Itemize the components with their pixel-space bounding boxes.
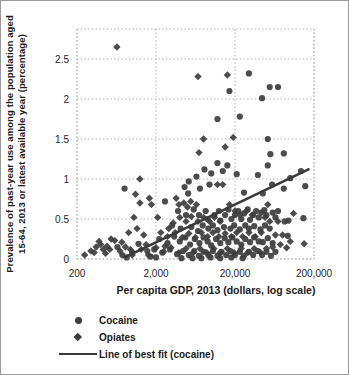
cocaine-point xyxy=(153,254,159,260)
y-tick-label: 1 xyxy=(63,174,69,185)
x-tick-label: 20,000 xyxy=(220,268,251,279)
cocaine-point xyxy=(275,208,281,214)
cocaine-point xyxy=(225,239,231,245)
opiate-point xyxy=(219,181,226,188)
cocaine-point xyxy=(186,178,192,184)
cocaine-point xyxy=(203,208,209,214)
opiate-point xyxy=(264,201,271,208)
y-tick-label: 2 xyxy=(63,94,69,105)
cocaine-point xyxy=(275,84,281,90)
x-tick-label: 200 xyxy=(69,268,86,279)
opiate-point xyxy=(187,198,194,205)
opiate-point xyxy=(224,71,231,78)
cocaine-point xyxy=(224,162,230,168)
cocaine-point xyxy=(217,240,223,246)
cocaine-circle-marker-icon xyxy=(75,317,82,324)
cocaine-point xyxy=(193,174,199,180)
opiate-point xyxy=(130,214,137,221)
cocaine-point xyxy=(206,182,212,188)
opiate-point xyxy=(172,195,179,202)
cocaine-point xyxy=(265,162,271,168)
cocaine-point xyxy=(251,223,257,229)
cocaine-point xyxy=(200,222,206,228)
y-tick-label: 0 xyxy=(63,254,69,265)
opiates-diamond-marker-icon xyxy=(74,333,82,341)
cocaine-point xyxy=(214,116,220,122)
legend-label-opiates: Opiates xyxy=(99,332,136,343)
x-tick-label: 200,000 xyxy=(296,268,333,279)
cocaine-point xyxy=(247,239,253,245)
cocaine-point xyxy=(237,114,243,120)
opiate-point xyxy=(132,191,139,198)
cocaine-point xyxy=(198,255,204,261)
opiate-point xyxy=(195,149,202,156)
scatter-plot: 00.511.522.52002,00020,000200,000 xyxy=(1,1,349,375)
opiate-point xyxy=(283,244,290,251)
opiate-point xyxy=(133,225,140,232)
cocaine-point xyxy=(121,186,127,192)
opiate-point xyxy=(148,201,155,208)
opiate-point xyxy=(157,229,164,236)
cocaine-point xyxy=(183,212,189,218)
opiate-point xyxy=(230,134,237,141)
cocaine-point xyxy=(285,233,291,239)
best-fit-line-swatch-icon xyxy=(59,353,97,356)
opiate-point xyxy=(176,214,183,221)
cocaine-point xyxy=(265,235,271,241)
y-tick-label: 1.5 xyxy=(55,134,69,145)
cocaine-point xyxy=(246,70,252,76)
cocaine-point xyxy=(267,226,273,232)
cocaine-point xyxy=(234,171,240,177)
cocaine-point xyxy=(178,255,184,261)
opiate-point xyxy=(81,251,88,258)
opiate-point xyxy=(146,195,153,202)
opiate-point xyxy=(277,241,284,248)
cocaine-point xyxy=(226,88,232,94)
cocaine-point xyxy=(300,215,306,221)
chart: 00.511.522.52002,00020,000200,000 Preval… xyxy=(0,0,349,375)
opiate-point xyxy=(272,231,279,238)
cocaine-point xyxy=(241,190,247,196)
cocaine-point xyxy=(185,190,191,196)
opiate-point xyxy=(125,229,132,236)
opiate-point xyxy=(279,231,286,238)
cocaine-point xyxy=(221,224,227,230)
cocaine-point xyxy=(260,239,266,245)
cocaine-point xyxy=(259,95,265,101)
legend-label-bestfit: Line of best fit (cocaine) xyxy=(99,349,214,360)
cocaine-point xyxy=(201,166,207,172)
cocaine-point xyxy=(208,170,214,176)
opiate-point xyxy=(136,199,143,206)
cocaine-point xyxy=(240,255,246,261)
cocaine-point xyxy=(282,218,288,224)
y-axis-title-line1: Prevalence of past-year use among the po… xyxy=(4,0,16,290)
cocaine-point xyxy=(197,186,203,192)
y-axis-title-line2: 15-64, 2013 or latest available year (pe… xyxy=(16,0,28,290)
opiate-point xyxy=(221,143,228,150)
cocaine-point xyxy=(265,136,271,142)
cocaine-point xyxy=(175,208,181,214)
cocaine-point xyxy=(281,186,287,192)
cocaine-point xyxy=(255,172,261,178)
cocaine-point xyxy=(267,84,273,90)
opiate-point xyxy=(136,175,143,182)
opiate-point xyxy=(290,210,297,217)
cocaine-point xyxy=(231,222,237,228)
cocaine-point xyxy=(187,242,193,248)
opiate-point xyxy=(154,214,161,221)
opiate-point xyxy=(194,73,201,80)
cocaine-point xyxy=(267,151,273,157)
y-tick-label: 2.5 xyxy=(55,54,69,65)
legend-item-bestfit: Line of best fit (cocaine) xyxy=(59,347,214,361)
cocaine-point xyxy=(302,183,308,189)
legend-item-opiates: Opiates xyxy=(59,330,136,344)
x-tick-label: 2,000 xyxy=(143,268,168,279)
opiate-point xyxy=(300,240,307,247)
cocaine-point xyxy=(181,184,187,190)
cocaine-point xyxy=(135,241,141,247)
legend-item-cocaine: Cocaine xyxy=(59,313,138,327)
legend-label-cocaine: Cocaine xyxy=(99,315,138,326)
y-tick-label: 0.5 xyxy=(55,214,69,225)
cocaine-point xyxy=(189,255,195,261)
cocaine-point xyxy=(214,160,220,166)
